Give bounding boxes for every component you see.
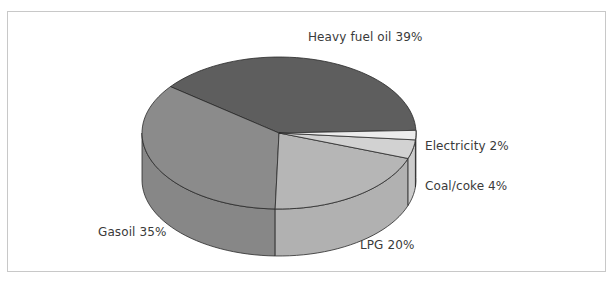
label-electricity: Electricity 2% (425, 139, 509, 153)
label-coal-coke: Coal/coke 4% (425, 179, 507, 193)
label-lpg: LPG 20% (360, 238, 414, 252)
label-gasoil: Gasoil 35% (98, 225, 166, 239)
label-heavy-fuel-oil: Heavy fuel oil 39% (308, 30, 422, 44)
pie-top (142, 57, 416, 209)
